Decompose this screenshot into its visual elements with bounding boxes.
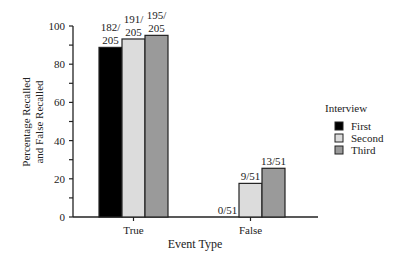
legend-label: Third [351,144,376,156]
bar-value-label: 195/ [147,9,168,21]
y-axis-label: Percentage Recalledand False Recalled [20,77,45,167]
bar-first [99,47,122,217]
legend-swatch-second [335,134,343,142]
y-tick-label: 80 [54,58,66,70]
bar-second [239,183,262,217]
bars [99,35,285,217]
y-axis-label-line: Percentage Recalled [20,77,32,167]
legend-swatch-first [335,122,343,130]
y-tick-label: 20 [54,173,66,185]
x-axis: TrueFalse [73,217,318,236]
bar-value-label: 182/ [101,21,122,33]
y-tick-label: 0 [60,211,66,223]
y-tick-label: 100 [49,20,66,32]
legend-swatch-third [335,146,343,154]
bar-third [145,35,168,217]
x-axis-label: Event Type [168,237,223,251]
bar-value-label: 0/51 [218,204,238,216]
x-tick-label: False [239,224,262,236]
bar-value-label: 13/51 [261,155,286,167]
bar-value-label: 191/ [124,13,145,25]
y-axis-label-line: and False Recalled [33,80,45,164]
legend-label: Second [351,132,384,144]
bar-value-label: 9/51 [241,170,261,182]
y-tick-label: 40 [54,135,66,147]
y-axis: 020406080100 [49,20,74,223]
bar-value-label: 205 [125,26,142,38]
legend-title: Interview [325,102,367,114]
bar-third [262,168,285,217]
legend-label: First [351,120,371,132]
bar-value-label: 205 [148,22,165,34]
bar-chart: 020406080100 TrueFalse 182/205191/205195… [0,0,398,268]
x-tick-label: True [123,224,143,236]
legend: InterviewFirstSecondThird [325,102,384,156]
y-tick-label: 60 [54,96,66,108]
bar-second [122,39,145,217]
bar-value-label: 205 [102,34,119,46]
